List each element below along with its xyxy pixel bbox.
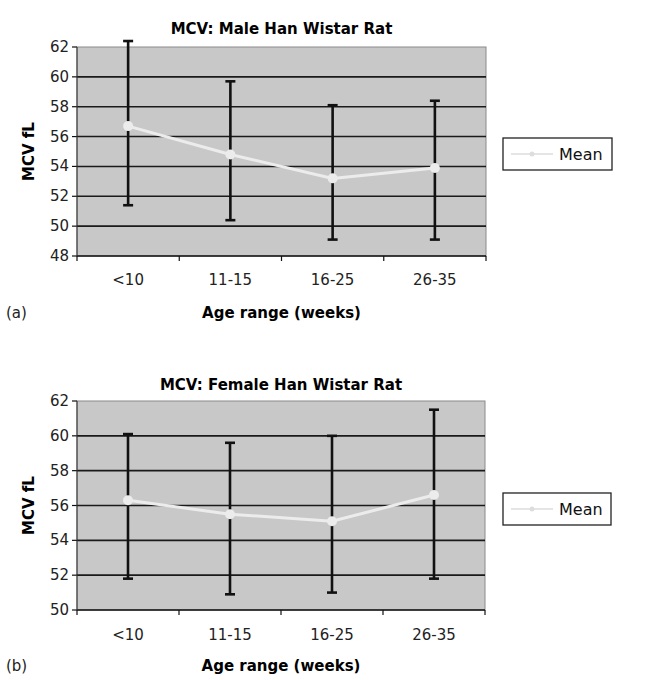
legend-marker (530, 507, 535, 512)
x-axis-label: Age range (weeks) (202, 304, 361, 322)
y-tick-label: 58 (50, 98, 69, 116)
y-tick-label: 56 (50, 128, 69, 146)
y-axis-label: MCV fL (20, 476, 38, 535)
y-tick-label: 52 (50, 566, 69, 584)
mean-point (123, 121, 133, 131)
y-tick-label: 60 (50, 68, 69, 86)
y-tick-label: 62 (50, 392, 69, 410)
legend-marker (530, 152, 535, 157)
y-tick-label: 56 (50, 497, 69, 515)
legend-label: Mean (559, 145, 603, 164)
x-tick-label: 11-15 (208, 626, 252, 644)
y-tick-label: 52 (50, 187, 69, 205)
mean-point (328, 173, 338, 183)
y-tick-label: 50 (50, 601, 69, 619)
legend-label: Mean (559, 500, 603, 519)
y-tick-label: 60 (50, 427, 69, 445)
mean-point (123, 495, 133, 505)
x-tick-label: <10 (112, 626, 144, 644)
mean-point (327, 516, 337, 526)
x-tick-label: 26-35 (412, 626, 456, 644)
mean-point (430, 163, 440, 173)
x-tick-label: 16-25 (310, 626, 354, 644)
y-tick-label: 54 (50, 157, 69, 175)
mean-point (429, 490, 439, 500)
chart-title: MCV: Male Han Wistar Rat (171, 20, 393, 38)
y-tick-label: 62 (50, 38, 69, 56)
x-tick-label: 26-35 (413, 271, 457, 289)
chart-title: MCV: Female Han Wistar Rat (160, 376, 402, 394)
y-tick-label: 48 (50, 247, 69, 265)
panel-label: (a) (6, 304, 27, 322)
plot-area (77, 47, 486, 256)
x-tick-label: 11-15 (209, 271, 253, 289)
panel-label: (b) (6, 657, 27, 675)
x-axis-label: Age range (weeks) (202, 657, 361, 675)
x-tick-label: <10 (112, 271, 144, 289)
y-axis-label: MCV fL (20, 122, 38, 181)
figure: MCV: Male Han Wistar Rat4850525456586062… (0, 0, 651, 680)
y-tick-label: 54 (50, 531, 69, 549)
mean-point (225, 149, 235, 159)
x-tick-label: 16-25 (311, 271, 355, 289)
y-tick-label: 50 (50, 217, 69, 235)
mean-point (225, 509, 235, 519)
chart-a: MCV: Male Han Wistar Rat4850525456586062… (6, 20, 612, 322)
y-tick-label: 58 (50, 462, 69, 480)
chart-b: MCV: Female Han Wistar Rat50525456586062… (6, 376, 611, 675)
